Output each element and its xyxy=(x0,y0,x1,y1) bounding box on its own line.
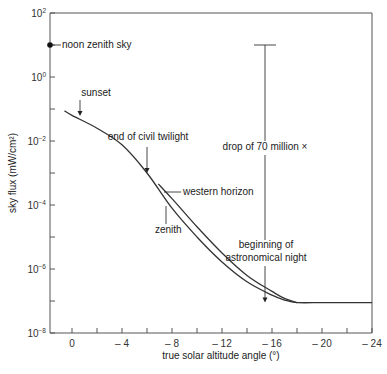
y-tick-label: 102 xyxy=(31,7,46,19)
plot-frame xyxy=(50,13,372,333)
annotation-astronomical-night: astronomical night xyxy=(225,252,306,263)
y-tick-label: 10−4 xyxy=(27,199,46,211)
annotation-end-of-civil-twilight: end of civil twilight xyxy=(108,131,189,142)
axes-frame xyxy=(50,13,372,333)
x-tick-label: – 8 xyxy=(165,338,179,349)
x-axis-label: true solar altitude angle (°) xyxy=(162,350,279,361)
annotations: noon zenith skysunsetend of civil twilig… xyxy=(47,39,309,303)
x-tick-label: – 4 xyxy=(115,338,129,349)
annotation-sunset: sunset xyxy=(81,87,111,98)
annotation-western-horizon: western horizon xyxy=(182,186,254,197)
x-tick-label: – 20 xyxy=(312,338,332,349)
astronomical-night-arrow-icon xyxy=(263,298,268,303)
y-tick-label: 10−2 xyxy=(27,135,46,147)
sky-flux-chart: 0– 4– 8– 12– 16– 20– 24 10210010−210−410… xyxy=(0,0,387,374)
y-axis-ticks: 10210010−210−410−610−8 xyxy=(27,7,55,339)
x-tick-label: – 12 xyxy=(212,338,232,349)
x-tick-label: – 24 xyxy=(362,338,382,349)
annotation-zenith: zenith xyxy=(155,224,182,235)
annotation-beginning-of: beginning of xyxy=(239,239,294,250)
annotation-drop-of-70-million-: drop of 70 million × xyxy=(223,141,308,152)
annotation-noon-zenith-sky: noon zenith sky xyxy=(62,39,132,50)
y-tick-label: 10−8 xyxy=(27,327,46,339)
sunset-arrow-icon xyxy=(78,111,83,116)
y-axis-label: sky flux (mW/cm²) xyxy=(7,133,18,213)
x-tick-label: 0 xyxy=(69,338,75,349)
y-tick-label: 10−6 xyxy=(27,263,46,275)
x-tick-label: – 16 xyxy=(262,338,282,349)
y-tick-label: 100 xyxy=(31,71,46,83)
noon-zenith-point xyxy=(47,42,53,48)
x-axis-ticks: 0– 4– 8– 12– 16– 20– 24 xyxy=(69,328,382,349)
